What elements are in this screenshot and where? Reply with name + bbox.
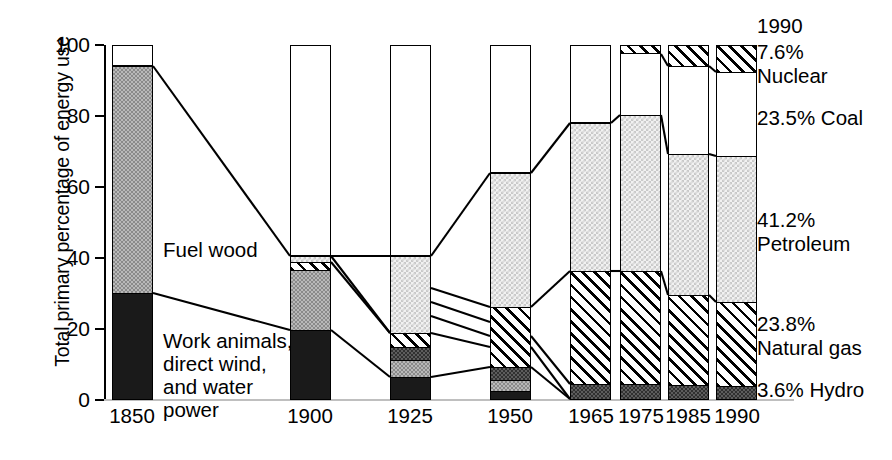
segment-coal-1985: [668, 66, 709, 155]
y-axis-line: [104, 45, 106, 401]
segment-nuclear-1990: [716, 45, 757, 73]
right-label-gas-pct: 23.8%: [757, 312, 815, 335]
segment-coal-1990: [716, 72, 757, 157]
segment-naturalgas-1990: [716, 302, 757, 387]
segment-coal-1925: [390, 45, 431, 256]
segment-petroleum-1975: [620, 115, 661, 272]
y-tick-40: 40: [38, 247, 90, 268]
x-tick-1990: 1990: [697, 406, 777, 427]
segment-naturalgas-1965: [570, 271, 611, 385]
y-tickmark-40: [95, 257, 104, 259]
segment-nuclear-1985: [668, 45, 709, 67]
segment-fuelwood-1850: [112, 66, 153, 294]
y-tickmark-60: [95, 186, 104, 188]
segment-hydro-1985: [668, 385, 709, 400]
segment-petroleum-1950: [490, 173, 531, 308]
bar-1850: [112, 45, 153, 400]
right-label-petroleum: Petroleum: [757, 232, 850, 255]
right-label-year: 1990: [757, 14, 803, 37]
segment-fuelwood-1900: [290, 270, 331, 331]
bar-1975: [620, 45, 661, 400]
x-tick-1900: 1900: [270, 406, 350, 427]
y-tick-100: 100: [38, 34, 90, 55]
segment-petroleum-1990: [716, 156, 757, 303]
segment-fuelwood-1925: [390, 360, 431, 378]
segment-workanimals-1900: [290, 330, 331, 400]
x-tick-1850: 1850: [92, 406, 172, 427]
right-label-coal: 23.5% Coal: [757, 106, 863, 129]
annotation-work-animals-line2: direct wind,: [163, 353, 293, 376]
segment-coal-1850: [112, 45, 153, 66]
bar-1900: [290, 45, 331, 400]
annotation-work-animals-line3: and water: [163, 376, 293, 399]
right-label-petroleum-pct: 41.2%: [757, 208, 815, 231]
right-label-nuclear: Nuclear: [757, 64, 828, 87]
segment-coal-1900: [290, 45, 331, 256]
bar-1925: [390, 45, 431, 400]
right-label-hydro: 3.6% Hydro: [757, 378, 864, 401]
segment-hydro-1975: [620, 384, 661, 400]
y-tick-20: 20: [38, 318, 90, 339]
segment-naturalgas-1925: [390, 333, 431, 348]
segment-petroleum-1985: [668, 154, 709, 296]
x-tick-1950: 1950: [470, 406, 550, 427]
segment-hydro-1990: [716, 386, 757, 400]
y-tickmark-100: [95, 44, 104, 46]
segment-naturalgas-1975: [620, 271, 661, 385]
segment-naturalgas-1985: [668, 295, 709, 386]
bar-1965: [570, 45, 611, 400]
chart-canvas: Total primary percentage of energy use 1…: [0, 0, 892, 460]
bar-1985: [668, 45, 709, 400]
right-label-nuclear-pct: 7.6%: [757, 40, 804, 63]
x-tick-1925: 1925: [370, 406, 450, 427]
segment-petroleum-1925: [390, 256, 431, 334]
segment-coal-1975: [620, 53, 661, 116]
segment-workanimals-1850: [112, 293, 153, 400]
y-tick-60: 60: [38, 176, 90, 197]
annotation-work-animals-line1: Work animals,: [163, 330, 293, 353]
y-tickmark-20: [95, 328, 104, 330]
segment-coal-1965: [570, 45, 611, 123]
annotation-fuel-wood: Fuel wood: [163, 239, 258, 262]
segment-naturalgas-1950: [490, 307, 531, 368]
segment-workanimals-1925: [390, 377, 431, 400]
y-tick-0: 0: [38, 389, 90, 410]
y-tickmark-80: [95, 115, 104, 117]
segment-hydro-1965: [570, 384, 611, 400]
y-tick-80: 80: [38, 105, 90, 126]
segment-coal-1950: [490, 45, 531, 173]
y-tickmark-0: [95, 399, 104, 401]
bar-1950: [490, 45, 531, 400]
bar-1990: [716, 45, 757, 400]
segment-petroleum-1965: [570, 123, 611, 272]
segment-hydro-1950: [490, 391, 531, 400]
right-label-gas: Natural gas: [757, 336, 862, 359]
segment-hydro-1925: [390, 347, 431, 361]
segment-workanimals-1950: [490, 367, 531, 381]
